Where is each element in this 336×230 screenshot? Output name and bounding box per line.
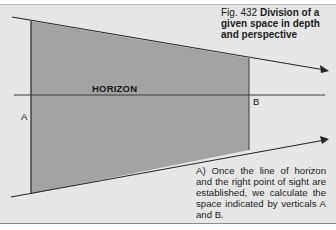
explanation-note: A) Once the line of horizon and the righ…: [196, 165, 326, 220]
vertical-b-label: B: [253, 96, 259, 107]
figure-caption: Fig. 432 Division of a given space in de…: [221, 7, 329, 40]
upper-arrow-head-icon: [320, 65, 329, 73]
horizon-label: HORIZON: [92, 83, 137, 94]
lower-arrow-head-icon: [320, 136, 329, 144]
vertical-a-label: A: [21, 111, 27, 122]
figure-number: Fig. 432: [221, 7, 257, 18]
